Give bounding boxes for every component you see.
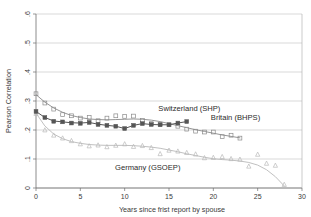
data-point [61, 113, 65, 117]
data-point [87, 121, 91, 125]
data-point [52, 119, 56, 123]
data-point [141, 122, 145, 126]
data-point [114, 124, 118, 128]
plot-svg: 0.1.2.3.4.5.6 051015202530 Switzerland (… [0, 0, 311, 217]
y-tick-label: .1 [24, 156, 31, 162]
data-point [78, 121, 82, 125]
data-point [273, 163, 277, 167]
data-point [167, 123, 171, 127]
data-point [132, 123, 136, 127]
data-point [220, 154, 224, 158]
data-point [123, 127, 127, 131]
x-tick-label: 30 [298, 193, 306, 200]
x-tick-label: 5 [78, 193, 82, 200]
series-label: Britain (BHPS) [211, 113, 261, 122]
y-tick-label: 0 [24, 186, 31, 190]
data-point [70, 121, 74, 125]
y-tick-label: .3 [24, 98, 31, 104]
x-tick-label: 25 [254, 193, 262, 200]
x-tick-label: 0 [34, 193, 38, 200]
data-point [176, 121, 180, 125]
x-tick-label: 15 [165, 193, 173, 200]
data-point [96, 123, 100, 127]
data-point [61, 120, 65, 124]
data-point [149, 123, 153, 127]
y-tick-label: .2 [24, 127, 31, 133]
data-point [264, 161, 268, 165]
data-point [131, 144, 135, 148]
y-axis-title: Pearson Correlation [4, 69, 13, 133]
data-point [158, 123, 162, 127]
gridlines [36, 14, 302, 188]
x-tick-label: 20 [209, 193, 217, 200]
series-label: Germany (GSOEP) [115, 163, 181, 172]
y-tick-labels: 0.1.2.3.4.5.6 [24, 11, 31, 190]
data-point [256, 152, 260, 156]
data-point [185, 120, 189, 124]
data-point [123, 114, 127, 118]
y-tick-label: .5 [24, 40, 31, 46]
data-point [114, 114, 118, 118]
y-tick-label: .6 [24, 11, 31, 17]
data-point [34, 110, 38, 114]
data-point [105, 123, 109, 127]
chart-figure: 0.1.2.3.4.5.6 051015202530 Switzerland (… [0, 0, 311, 217]
x-tick-labels: 051015202530 [34, 193, 306, 200]
data-point [43, 116, 47, 120]
data-point [132, 114, 136, 118]
data-point [247, 164, 251, 168]
x-axis-title: Years since frist report by spouse [119, 205, 225, 214]
data-point [140, 143, 144, 147]
series-label: Switzerland (SHP) [158, 104, 221, 113]
y-tick-label: .4 [24, 69, 31, 75]
data-point [176, 149, 180, 153]
data-point [158, 151, 162, 155]
x-tick-label: 10 [121, 193, 129, 200]
